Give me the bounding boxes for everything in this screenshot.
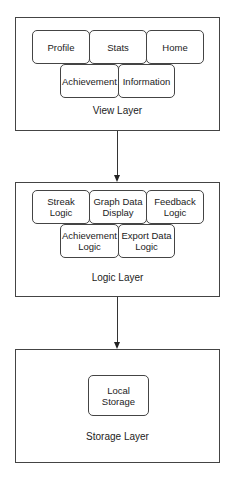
feedback-logic-node[interactable]: Feedback Logic bbox=[146, 190, 204, 224]
view-layer: Profile Stats Home Achievement Informati… bbox=[15, 17, 220, 131]
graph-data-display-node[interactable]: Graph Data Display bbox=[89, 190, 147, 224]
arrow-head-logic-to-storage bbox=[114, 342, 120, 349]
storage-layer-label: Storage Layer bbox=[16, 431, 219, 442]
logic-layer-label: Logic Layer bbox=[16, 272, 219, 283]
view-layer-label: View Layer bbox=[16, 105, 219, 116]
local-storage-node[interactable]: Local Storage bbox=[88, 375, 149, 416]
logic-layer: Streak Logic Graph Data Display Feedback… bbox=[15, 182, 220, 297]
export-data-logic-node[interactable]: Export Data Logic bbox=[118, 224, 175, 258]
arrow-logic-to-storage bbox=[117, 297, 118, 342]
profile-node[interactable]: Profile bbox=[32, 30, 90, 64]
home-node[interactable]: Home bbox=[146, 30, 204, 64]
streak-logic-node[interactable]: Streak Logic bbox=[32, 190, 90, 224]
arrow-head-view-to-logic bbox=[114, 175, 120, 182]
stats-node[interactable]: Stats bbox=[89, 30, 147, 64]
achievement-node[interactable]: Achievement bbox=[60, 64, 119, 98]
information-node[interactable]: Information bbox=[118, 64, 175, 98]
achievement-logic-node[interactable]: Achievement Logic bbox=[60, 224, 119, 258]
storage-layer: Local Storage Storage Layer bbox=[15, 349, 220, 463]
arrow-view-to-logic bbox=[117, 131, 118, 175]
